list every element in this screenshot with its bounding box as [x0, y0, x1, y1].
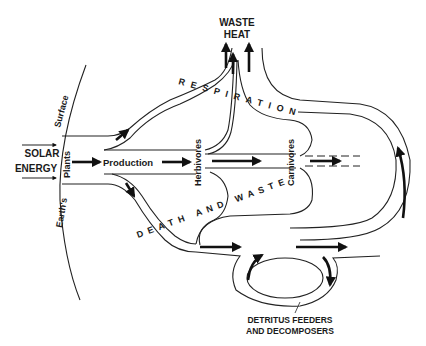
- outer-return-loop: [262, 48, 410, 240]
- production-channel-inner: [104, 60, 234, 150]
- detritus-label: AND DECOMPOSERS: [246, 326, 334, 336]
- herbivores-label: Herbivores: [193, 139, 203, 186]
- waste-heat-label: HEAT: [224, 29, 250, 40]
- plants-label: Plants: [62, 151, 72, 178]
- waste-heat-label: WASTE: [219, 17, 255, 28]
- inner-return-loop: [290, 112, 396, 228]
- leader-line: [295, 302, 300, 313]
- solar-energy-label: ENERGY: [15, 163, 58, 174]
- detritus-cycle-arrow: [248, 255, 262, 280]
- detritus-cycle-arrow: [323, 257, 330, 285]
- respiration-label: RESPIRATION: [177, 76, 302, 118]
- detritus-label: DETRITUS FEEDERS: [247, 315, 332, 325]
- solar-energy-label: SOLAR: [25, 148, 61, 159]
- death-and-waste-label: DEATH AND WASTE: [135, 175, 290, 240]
- detritus-ellipse: [247, 258, 323, 298]
- energy-flow-diagram: WASTE HEAT SOLAR ENERGY Production Surfa…: [0, 0, 426, 346]
- production-label: Production: [103, 157, 153, 168]
- earths-label: Earth's: [54, 197, 69, 228]
